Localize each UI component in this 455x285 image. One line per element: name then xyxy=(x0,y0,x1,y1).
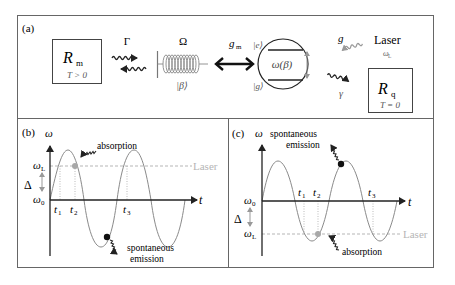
panel-b-t2-sub: 2 xyxy=(74,209,78,217)
double-arrow-icon xyxy=(216,58,253,70)
panel-c-t2-sub: 2 xyxy=(317,192,321,200)
panel-b-emission-dot xyxy=(104,234,110,240)
panel-c-emission-dot xyxy=(338,161,344,167)
oscillator-frequency: Ω xyxy=(179,35,187,47)
laser-freq-subscript: L xyxy=(388,53,392,59)
panel-b-absorption-arrow-icon xyxy=(81,151,96,157)
spring-coil-icon xyxy=(158,55,209,73)
figure-canvas: (a) R m T > 0 Γ Ω |β⟩ g xyxy=(0,0,455,285)
panel-b-frequency-wave xyxy=(50,150,185,247)
qubit-excited-label: |e⟩ xyxy=(253,40,263,50)
drive-symbol: g xyxy=(338,32,344,44)
panel-a-label: (a) xyxy=(22,22,35,35)
panel-c-laser-label: Laser xyxy=(403,228,428,240)
oscillator-state: |β⟩ xyxy=(176,80,188,91)
reservoir-m-condition: T > 0 xyxy=(67,70,87,80)
panel-c-absorption-dot xyxy=(315,231,321,237)
laser-label: Laser xyxy=(374,33,401,47)
panel-b-emission-label-1: spontaneous xyxy=(127,243,174,253)
panel-b-emission-arrow-icon xyxy=(110,240,117,254)
panel-c-t-axis-label: t xyxy=(408,195,412,209)
panel-b: (b) ω Laser t ω L ω 0 Δ t 1 t 2 t 3 abso… xyxy=(22,126,218,264)
panel-b-absorption-dot xyxy=(72,163,78,169)
panel-c-absorption-arrow-icon xyxy=(329,236,339,250)
reservoir-m-subscript: m xyxy=(76,58,83,68)
panel-c-omega-L: ω xyxy=(244,227,252,239)
panel-c-emission-label-2: emission xyxy=(286,140,320,150)
panel-b-omega-0-sub: 0 xyxy=(41,199,45,207)
wavy-drive-arrow-icon xyxy=(342,42,363,50)
panel-b-omega-L: ω xyxy=(33,159,41,171)
panel-c-omega-0: ω xyxy=(244,194,252,206)
reservoir-q-subscript: q xyxy=(391,89,396,99)
panel-c-t3-sub: 3 xyxy=(372,192,376,200)
wavy-decay-arrow-icon xyxy=(327,73,349,81)
panel-b-omega-L-sub: L xyxy=(41,165,45,173)
qubit-transition-label: ω(β) xyxy=(272,58,293,71)
panel-c-omega-0-sub: 0 xyxy=(252,200,256,208)
panel-c-delta: Δ xyxy=(234,212,242,226)
reservoir-m-symbol: R xyxy=(62,49,73,66)
panel-c: (c) ω Laser t ω 0 ω L Δ t 1 t 2 t 3 spon… xyxy=(232,127,428,257)
panel-c-emission-label-1: spontaneous xyxy=(270,129,317,139)
panel-c-t1-sub: 1 xyxy=(302,192,306,200)
coupling-subscript: m xyxy=(236,43,242,51)
wavy-arrow-left-icon xyxy=(121,68,146,71)
panel-b-t-axis-label: t xyxy=(199,193,203,207)
panel-c-emission-arrow-icon xyxy=(331,145,339,160)
panel-b-absorption-label: absorption xyxy=(97,141,137,151)
reservoir-q-condition: T = 0 xyxy=(380,100,400,110)
panel-b-t1-sub: 1 xyxy=(58,209,62,217)
panel-b-delta: Δ xyxy=(24,178,32,192)
wavy-arrow-right-icon xyxy=(112,57,137,60)
panel-c-label: (c) xyxy=(232,127,245,140)
panel-b-omega-0: ω xyxy=(33,193,41,205)
panel-b-label: (b) xyxy=(22,126,35,139)
gamma-rate-label: Γ xyxy=(124,35,130,47)
reservoir-q-symbol: R xyxy=(377,80,388,97)
panel-b-emission-label-2: emission xyxy=(130,254,164,264)
panel-c-omega-L-sub: L xyxy=(252,233,256,241)
coupling-symbol: g xyxy=(229,37,235,49)
panel-a: (a) R m T > 0 Γ Ω |β⟩ g xyxy=(22,22,413,113)
panel-c-y-axis-label: ω xyxy=(255,127,263,139)
qubit-ground-label: |g⟩ xyxy=(253,81,264,91)
decay-symbol: γ xyxy=(339,88,344,99)
panel-b-y-axis-label: ω xyxy=(45,127,53,139)
panel-b-laser-label: Laser xyxy=(193,160,218,172)
panel-c-absorption-label: absorption xyxy=(342,247,382,257)
panel-b-t3-sub: 3 xyxy=(127,209,131,217)
